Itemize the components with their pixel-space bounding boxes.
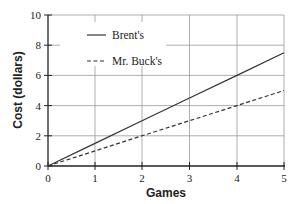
y-axis-label: Cost (dollars) xyxy=(11,51,25,128)
y-tick-label: 6 xyxy=(36,69,42,81)
y-tick-labels: 0 2 4 6 8 10 xyxy=(30,9,42,172)
x-axis-label: Games xyxy=(146,186,186,200)
x-tick-label: 0 xyxy=(45,172,51,184)
x-tick-label: 1 xyxy=(92,172,98,184)
y-tick-label: 0 xyxy=(36,160,42,172)
x-tick-label: 5 xyxy=(281,172,287,184)
y-tick-label: 2 xyxy=(36,130,42,142)
legend-label-buck: Mr. Buck's xyxy=(112,55,163,67)
y-tick-label: 8 xyxy=(36,39,42,51)
x-tick-labels: 0 1 2 3 4 5 xyxy=(45,172,287,184)
series-buck-line xyxy=(48,91,284,167)
legend-label-brent: Brent's xyxy=(112,29,145,41)
y-tick-label: 10 xyxy=(30,9,42,21)
x-tick-label: 4 xyxy=(234,172,240,184)
y-tick-label: 4 xyxy=(36,100,42,112)
line-chart: 0 2 4 6 8 10 0 1 2 3 4 5 Games Cost (dol… xyxy=(0,0,294,204)
series-brent-line xyxy=(48,53,284,166)
x-tick-label: 2 xyxy=(139,172,145,184)
x-tick-label: 3 xyxy=(187,172,193,184)
